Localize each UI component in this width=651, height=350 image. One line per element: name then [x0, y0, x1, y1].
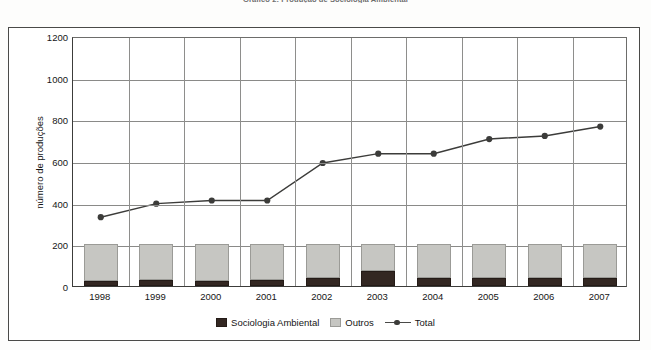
bar-segment-outros [139, 244, 173, 279]
bar-group [528, 244, 562, 286]
y-tick-label: 0 [28, 282, 68, 293]
bar-group [84, 244, 118, 286]
bar-segment-sociologia-ambiental [306, 278, 340, 286]
plot-area [72, 37, 627, 287]
gridline-vertical [184, 38, 185, 286]
bar-segment-outros [472, 244, 506, 278]
bar-segment-sociologia-ambiental [472, 278, 506, 286]
chart-title: Gráfico 2: Produção de Sociologia Ambien… [0, 0, 651, 3]
bar-segment-sociologia-ambiental [528, 278, 562, 286]
legend-swatch-dark-icon [216, 318, 227, 327]
legend-swatch-gray-icon [330, 318, 341, 327]
legend-label-sociologia-ambiental: Sociologia Ambiental [231, 317, 319, 328]
bar-segment-sociologia-ambiental [250, 280, 284, 286]
gridline-vertical [573, 38, 574, 286]
bar-group [417, 244, 451, 286]
gridline-vertical [351, 38, 352, 286]
gridline-horizontal [73, 121, 626, 122]
bar-group [250, 244, 284, 286]
total-line-marker [153, 201, 159, 207]
bar-segment-outros [306, 244, 340, 277]
bar-group [472, 244, 506, 286]
legend-item-sociologia-ambiental: Sociologia Ambiental [216, 317, 319, 328]
gridline-vertical [462, 38, 463, 286]
bar-segment-sociologia-ambiental [361, 271, 395, 286]
x-tick-label: 2006 [514, 291, 574, 302]
gridline-vertical [406, 38, 407, 286]
legend-label-total: Total [415, 317, 435, 328]
total-line-marker [98, 214, 104, 220]
gridline-vertical [240, 38, 241, 286]
bar-segment-sociologia-ambiental [583, 278, 617, 286]
x-tick-label: 2007 [569, 291, 629, 302]
bar-segment-outros [195, 244, 229, 280]
bar-segment-outros [250, 244, 284, 279]
bar-group [195, 244, 229, 286]
bar-segment-sociologia-ambiental [417, 278, 451, 286]
bar-segment-outros [528, 244, 562, 278]
bar-segment-outros [417, 244, 451, 277]
total-line-marker [264, 197, 270, 203]
y-axis-title-container: número de produções [14, 37, 34, 287]
x-tick-label: 1999 [125, 291, 185, 302]
gridline-vertical [295, 38, 296, 286]
total-line-marker [209, 197, 215, 203]
y-axis-title: número de produções [34, 78, 45, 248]
legend-line-marker-icon [385, 318, 411, 327]
gridline-horizontal [73, 163, 626, 164]
gridline-horizontal [73, 205, 626, 206]
x-tick-label: 2000 [181, 291, 241, 302]
chart-legend: Sociologia Ambiental Outros Total [0, 317, 651, 328]
gridline-horizontal [73, 80, 626, 81]
legend-label-outros: Outros [345, 317, 374, 328]
bar-group [583, 244, 617, 286]
total-line-marker [542, 133, 548, 139]
gridline-vertical [129, 38, 130, 286]
bar-segment-outros [583, 244, 617, 278]
x-tick-label: 2004 [403, 291, 463, 302]
x-tick-label: 1998 [70, 291, 130, 302]
total-line-marker [486, 136, 492, 142]
x-tick-label: 2003 [347, 291, 407, 302]
bar-segment-sociologia-ambiental [195, 281, 229, 286]
x-tick-label: 2002 [292, 291, 352, 302]
legend-item-outros: Outros [330, 317, 374, 328]
gridline-vertical [517, 38, 518, 286]
bar-segment-sociologia-ambiental [139, 280, 173, 286]
total-line-marker [431, 151, 437, 157]
y-tick-label: 1200 [28, 32, 68, 43]
bar-group [361, 244, 395, 286]
x-tick-label: 2001 [236, 291, 296, 302]
bar-group [139, 244, 173, 286]
total-line-marker [597, 123, 603, 129]
x-tick-label: 2005 [458, 291, 518, 302]
x-axis-ticks: 1998199920002001200220032004200520062007 [72, 291, 627, 307]
total-line-marker [375, 151, 381, 157]
bar-segment-outros [361, 244, 395, 271]
bar-segment-outros [84, 244, 118, 280]
bar-group [306, 244, 340, 286]
legend-item-total: Total [385, 317, 435, 328]
bar-segment-sociologia-ambiental [84, 281, 118, 286]
